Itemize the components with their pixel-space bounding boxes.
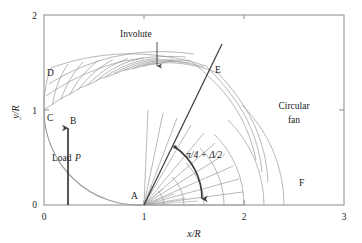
x-axis-title: x/R [186,228,200,239]
x-tick-label-2: 2 [242,212,247,222]
circular-fan-label-line2: fan [288,115,300,125]
circular-fan-annotation: Circular fan [278,101,310,125]
involute-curve [53,64,69,105]
x-axis-tick-labels: 0 1 2 3 [42,212,347,222]
y-axis-tick-labels: 0 1 2 [32,11,37,210]
involute-mesh [44,52,218,205]
x-tick-label-1: 1 [142,212,147,222]
angle-label: π/4 + Δ/2 [186,150,222,160]
fan-ray [144,179,239,205]
load-label: Load P [52,153,81,163]
involute-curve-family [44,58,218,110]
load-label-symbol: P [74,153,81,163]
fan-outer-boundary [190,61,256,161]
fan-ray [144,118,177,205]
y-axis-title: y/R [10,105,21,119]
load-label-text: Load [52,153,74,163]
circular-arc [51,54,206,68]
point-label-D: D [47,68,54,78]
angle-annotation: π/4 + Δ/2 [186,150,222,160]
involute-label: Involute [120,29,152,39]
fan-ray [144,125,191,205]
fan-arc [228,120,264,205]
y-tick-label-2: 2 [32,11,37,21]
point-label-C: C [47,113,53,123]
involute-curve [70,61,99,96]
fan-ray [144,110,148,205]
slip-line-field-chart: Involute Circular fan Load P π/4 + Δ/2 D… [0,0,362,243]
angle-arc-start-dot [173,145,177,149]
y-tick-label-0: 0 [32,200,37,210]
circular-arc-family [44,52,206,110]
circular-fan [144,61,284,206]
x-tick-label-3: 3 [342,212,347,222]
fan-arc [214,134,244,205]
involute-curve [143,63,218,73]
circular-fan-label-line1: Circular [278,101,310,111]
point-label-E: E [215,65,221,75]
point-label-B: B [70,116,76,126]
y-tick-label-1: 1 [32,106,37,116]
point-label-A: A [131,191,138,201]
load-annotation: Load P [52,128,81,205]
x-tick-label-0: 0 [42,212,47,222]
point-label-F: F [299,178,304,188]
axis-titles: x/R y/R [10,105,201,239]
figure-container: Involute Circular fan Load P π/4 + Δ/2 D… [0,0,362,243]
